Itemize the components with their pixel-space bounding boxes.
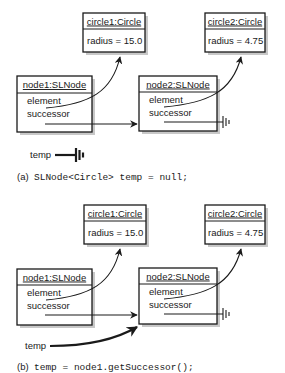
circle1-object-box: circle1:Circle radius = 15.0	[83, 13, 148, 55]
circle1-title: circle1:Circle	[88, 208, 142, 219]
panel-b: circle1:Circle radius = 15.0 circle2:Cir…	[17, 205, 268, 373]
node1-object-box: node1:SLNode element successor	[17, 76, 95, 135]
linked-list-diagram: circle1:Circle radius = 15.0 circle2:Cir…	[0, 0, 285, 373]
circle1-object-box: circle1:Circle radius = 15.0	[84, 205, 149, 247]
circle2-radius: radius = 4.75	[208, 35, 263, 46]
temp-label: temp	[30, 149, 51, 160]
circle2-radius: radius = 4.75	[208, 227, 263, 238]
node1-element-field: element	[27, 95, 61, 106]
node1-element-field: element	[27, 287, 61, 298]
circle2-title: circle2:Circle	[208, 16, 262, 27]
node2-element-field: element	[149, 94, 183, 105]
node1-title: node1:SLNode	[23, 79, 86, 90]
circle2-title: circle2:Circle	[208, 208, 262, 219]
node2-title: node2:SLNode	[146, 79, 209, 90]
caption-a: (a) SLNode<Circle> temp = null;	[17, 166, 188, 183]
caption-b: (b) temp = node1.getSuccessor();	[17, 356, 194, 373]
circle1-radius: radius = 15.0	[87, 35, 142, 46]
circle2-object-box: circle2:Circle radius = 4.75	[205, 205, 268, 247]
temp-null-ground-icon	[55, 148, 83, 162]
circle1-radius: radius = 15.0	[88, 227, 143, 238]
node1-title: node1:SLNode	[23, 272, 86, 283]
node1-successor-field: successor	[27, 108, 70, 119]
temp-reference-arrow	[50, 327, 137, 346]
node2-title: node2:SLNode	[146, 271, 209, 282]
node2-successor-field: successor	[149, 107, 192, 118]
panel-a: circle1:Circle radius = 15.0 circle2:Cir…	[17, 13, 268, 183]
node1-successor-field: successor	[27, 300, 70, 311]
circle1-title: circle1:Circle	[87, 16, 141, 27]
circle2-object-box: circle2:Circle radius = 4.75	[205, 13, 268, 55]
node2-successor-field: successor	[149, 299, 192, 310]
temp-label: temp	[25, 340, 46, 351]
node2-element-field: element	[149, 286, 183, 297]
